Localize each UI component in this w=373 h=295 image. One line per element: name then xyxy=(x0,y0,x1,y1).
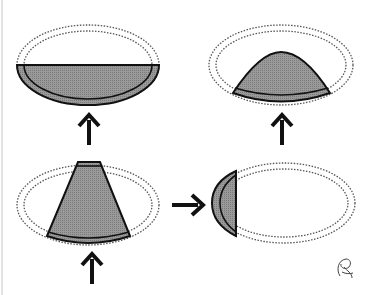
inner-dotted-ellipse xyxy=(220,169,348,237)
panel-top-left xyxy=(17,25,159,145)
diagram-canvas xyxy=(0,0,373,295)
panel-bottom-left xyxy=(17,162,159,284)
arrow-right-icon xyxy=(172,195,203,215)
signature-mark xyxy=(338,259,353,278)
panel-bottom-right xyxy=(172,163,355,243)
diagram-svg xyxy=(0,0,373,295)
arrow-up-icon xyxy=(79,115,99,145)
shaded-dome xyxy=(233,52,330,102)
arrow-up-icon xyxy=(82,254,102,284)
arrow-up-icon xyxy=(272,115,292,145)
shaded-lateral-cap xyxy=(212,171,236,236)
panel-top-right xyxy=(209,25,353,145)
